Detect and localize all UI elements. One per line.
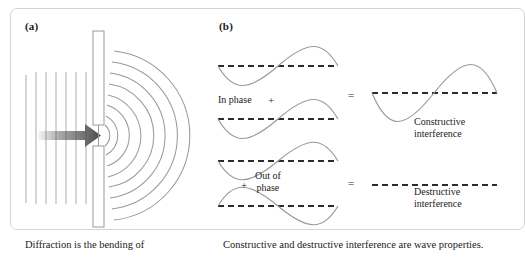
panel-b-label: (b) — [219, 20, 233, 32]
constructive-line-1: Constructive — [414, 116, 465, 127]
in-phase-plus-sign: + — [268, 95, 274, 107]
panel-a-label: (a) — [25, 20, 38, 32]
destructive-line-1: Destructive — [414, 186, 460, 197]
panel-b-caption: Constructive and destructive interferenc… — [223, 239, 483, 250]
destructive-line-2: interference — [414, 198, 462, 209]
constructive-interference-label: Constructive interference — [414, 116, 465, 139]
panel-a-caption: Diffraction is the bending of — [25, 239, 144, 250]
constructive-line-2: interference — [414, 128, 462, 139]
out-of-phase-equals-sign: = — [348, 178, 354, 190]
out-of-phase-label: Out of phase — [255, 170, 281, 194]
destructive-interference-label: Destructive interference — [414, 186, 462, 209]
out-of-phase-line-2: phase — [257, 182, 280, 193]
in-phase-equals-sign: = — [348, 90, 354, 102]
in-phase-label: In phase — [218, 94, 252, 106]
out-of-phase-line-1: Out of — [255, 170, 281, 181]
out-of-phase-plus-sign: + — [241, 180, 247, 192]
